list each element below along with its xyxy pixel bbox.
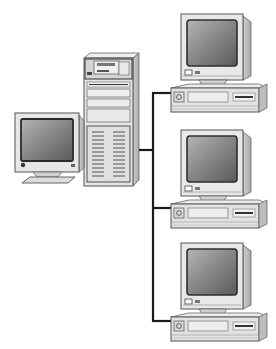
network-diagram xyxy=(0,0,276,349)
workstation-1 xyxy=(171,14,267,112)
workstation-2 xyxy=(171,130,267,228)
server-tower xyxy=(84,53,139,186)
workstation-3 xyxy=(171,243,267,341)
server-monitor xyxy=(15,113,84,183)
network-cable xyxy=(139,93,172,321)
